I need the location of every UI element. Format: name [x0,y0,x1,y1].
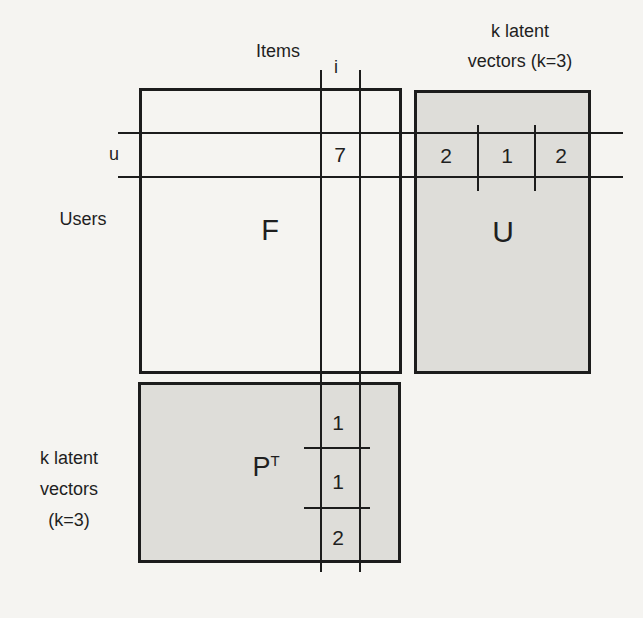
cell-PT-col-i-value-2: 1 [332,469,344,494]
cell-PT-col-i-value-3: 2 [332,525,344,550]
k-latent-left-line2: vectors [40,474,98,505]
cell-U-row-u-value-1: 2 [440,143,452,168]
k-latent-vectors-top-label: k latent vectors (k=3) [468,16,573,76]
cell-PT-col-i-value-1: 1 [332,410,344,435]
matrix-U-row-divider-1 [477,125,479,191]
users-axis-label: Users [59,209,106,231]
matrix-U-row-divider-2 [534,125,536,191]
k-latent-vectors-left-label: k latent vectors (k=3) [40,443,98,536]
matrix-U-label: U [492,214,514,250]
column-i-right-line [359,70,361,572]
matrix-PT-column-divider-1 [304,447,370,449]
cell-F-u-i-value: 7 [334,142,346,167]
matrix-PT-label-superscript: T [270,452,279,469]
column-i-left-line [320,70,322,572]
items-axis-label: Items [256,41,300,63]
row-u-marker: u [109,144,119,166]
k-latent-left-line1: k latent [40,443,98,474]
cell-U-row-u-value-3: 2 [555,143,567,168]
matrix-factorization-diagram: Items i u Users k latent vectors (k=3) k… [0,0,643,618]
cell-U-row-u-value-2: 1 [501,143,513,168]
k-latent-top-line2: vectors (k=3) [468,46,573,76]
matrix-PT-column-divider-2 [304,507,370,509]
k-latent-top-line1: k latent [468,16,573,46]
row-u-bottom-line [118,176,623,178]
column-i-marker: i [334,57,338,79]
k-latent-left-line3: (k=3) [40,505,98,536]
matrix-PT-label-base: P [252,452,270,482]
matrix-F-label: F [261,213,279,248]
matrix-PT-label: PT [252,451,279,483]
row-u-top-line [118,132,623,134]
